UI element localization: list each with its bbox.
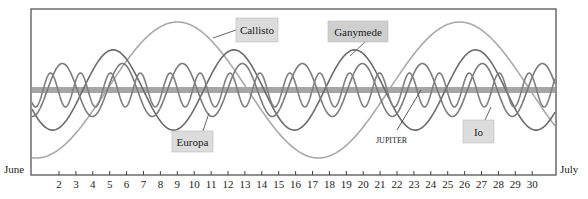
x-tick-label: 16 xyxy=(290,178,302,190)
x-tick-label: 28 xyxy=(493,178,505,190)
x-tick-label: 8 xyxy=(158,178,164,190)
europa-label: Europa xyxy=(177,136,209,148)
x-tick-label: 14 xyxy=(256,178,268,190)
x-tick-label: 18 xyxy=(324,178,336,190)
x-tick-label: 2 xyxy=(56,178,62,190)
x-tick-label: 21 xyxy=(375,178,386,190)
x-tick-label: 26 xyxy=(459,178,471,190)
x-tick-label: 17 xyxy=(307,178,319,190)
x-tick-label: 5 xyxy=(107,178,113,190)
x-tick-label: 25 xyxy=(442,178,454,190)
x-tick-label: 20 xyxy=(358,178,370,190)
ganymede-label: Ganymede xyxy=(334,26,382,38)
x-tick-label: 24 xyxy=(425,178,437,190)
x-tick-label: 10 xyxy=(189,178,201,190)
io-label: Io xyxy=(474,126,484,138)
x-tick-label: 9 xyxy=(175,178,181,190)
x-tick-label: 19 xyxy=(341,178,353,190)
callisto-label: Callisto xyxy=(240,24,275,36)
jupiter-label: JUPITER xyxy=(376,136,408,145)
x-tick-label: 30 xyxy=(527,178,539,190)
x-tick-label: 7 xyxy=(141,178,147,190)
x-tick-label: 13 xyxy=(239,178,251,190)
june-label: June xyxy=(4,163,24,175)
x-tick-label: 27 xyxy=(476,178,488,190)
x-tick-label: 4 xyxy=(90,178,96,190)
x-tick-label: 12 xyxy=(223,178,234,190)
x-tick-label: 3 xyxy=(73,178,79,190)
moons-chart: 2345678910111213141516171819202122232425… xyxy=(0,0,588,199)
x-tick-label: 15 xyxy=(273,178,285,190)
x-tick-label: 23 xyxy=(408,178,420,190)
x-tick-label: 22 xyxy=(392,178,403,190)
x-tick-label: 6 xyxy=(124,178,130,190)
x-tick-label: 29 xyxy=(510,178,522,190)
x-tick-label: 11 xyxy=(206,178,217,190)
july-label: July xyxy=(560,163,579,175)
